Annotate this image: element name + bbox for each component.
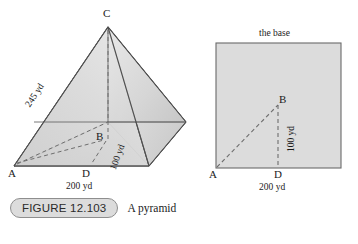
pyramid-apex-label: C [103,8,110,19]
base-center-label: B [279,94,286,105]
base-square-title: the base [259,29,290,39]
figure-number-badge: FIGURE 12.103 [10,198,118,218]
base-edge-length-label: 200 yd [259,183,285,193]
base-square-diagram [216,43,341,168]
figure-caption-text: A pyramid [127,202,176,214]
base-midpoint-label: D [274,169,282,180]
pyramid-center-label: B [96,131,103,142]
figure-caption-row: FIGURE 12.103 A pyramid [10,198,176,218]
figure-container: C B D A 245 yd 100 yd 200 yd the base A … [0,0,358,244]
pyramid-foot-label: D [82,168,90,179]
pyramid-corner-label: A [8,168,16,179]
base-half-edge-length-label: 100 yd [287,126,297,152]
pyramid-base-edge-length-label: 200 yd [66,182,92,192]
base-corner-label: A [209,169,217,180]
